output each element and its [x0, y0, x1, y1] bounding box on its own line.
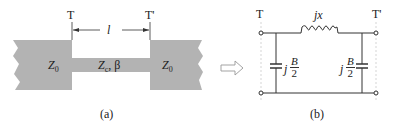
left-shunt-fraction: B2 [290, 56, 299, 79]
middle-impedance-label: Zc, β [98, 59, 120, 74]
right-shunt-fraction: B2 [346, 56, 355, 79]
length-label: l [107, 24, 110, 36]
right-wide-section [150, 40, 203, 90]
caption-a: (a) [100, 108, 113, 120]
terminal-label-t-prime-a: T' [145, 9, 155, 21]
terminal-top-right [374, 31, 378, 35]
diagram-canvas [0, 0, 394, 126]
terminal-top-left [259, 31, 263, 35]
left-wide-section [13, 40, 72, 90]
terminal-bottom-left [259, 91, 263, 95]
terminal-label-t-b: T [256, 8, 263, 20]
right-impedance-label: Z0 [162, 59, 173, 74]
double-arrow-icon [221, 61, 243, 75]
arrowhead-left-icon [73, 28, 79, 32]
right-shunt-prefix: j [340, 63, 343, 75]
left-impedance-label: Z0 [48, 59, 59, 74]
series-reactance-label: jx [314, 9, 323, 21]
caption-b: (b) [310, 108, 324, 120]
arrowhead-right-icon [143, 28, 149, 32]
terminal-label-t-prime-b: T' [372, 8, 382, 20]
terminal-label-t-a: T [67, 9, 74, 21]
left-shunt-prefix: j [284, 63, 287, 75]
terminal-bottom-right [374, 91, 378, 95]
equivalent-circuit [259, 22, 378, 100]
inductor-icon [301, 26, 338, 33]
